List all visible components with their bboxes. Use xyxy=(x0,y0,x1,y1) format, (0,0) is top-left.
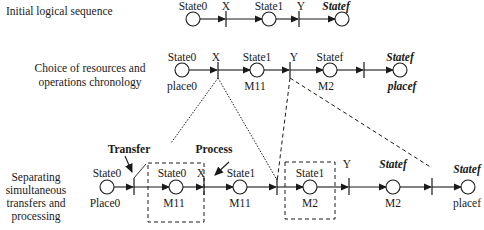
state1-label: State1 xyxy=(243,51,272,63)
place-state1 xyxy=(262,12,276,26)
place-state0-m11 xyxy=(169,180,183,194)
place-state0 xyxy=(186,12,200,26)
place-statef-m2 xyxy=(323,63,337,77)
place-state1-m2 xyxy=(303,180,317,194)
place-statef-m2 xyxy=(386,180,400,194)
x-label: X xyxy=(197,167,206,179)
petri-net-diagram: Initial logical sequence Choice of resou… xyxy=(0,0,484,230)
row3-label-line2: simultaneous xyxy=(6,184,67,196)
m2-label: M2 xyxy=(385,197,401,209)
x-label: X xyxy=(222,0,231,12)
state0-label: State0 xyxy=(93,167,122,179)
place-state0-place0 xyxy=(100,180,114,194)
row3-label-line4: processing xyxy=(11,210,60,223)
placef-label: placef xyxy=(387,80,418,93)
place0-label: Place0 xyxy=(90,197,121,209)
row3-label-line3: transfers and xyxy=(6,197,65,209)
transfer-annotation: Transfer xyxy=(108,143,151,155)
state0-label: State0 xyxy=(158,167,187,179)
statef-label: Statef xyxy=(317,51,344,63)
statef-label: Statef xyxy=(453,163,482,176)
state0-label: State0 xyxy=(168,51,197,63)
place-statef xyxy=(335,12,349,26)
state1-label: State1 xyxy=(296,167,325,179)
row2-label-line1: Choice of resources and xyxy=(35,62,146,74)
row1-net: State0 X State1 Y Statef xyxy=(179,0,351,27)
row3-label-line1: Separating xyxy=(11,171,60,184)
row2-net: State0 place0 X State1 M11 Y Statef M2 S… xyxy=(167,51,418,93)
y-label: Y xyxy=(297,0,306,12)
statef-label: Statef xyxy=(379,158,408,171)
m11-label: M11 xyxy=(229,197,251,209)
process-annotation: Process xyxy=(196,143,233,155)
place-state1-m11 xyxy=(250,63,264,77)
row2-label-line2: operations chronology xyxy=(38,76,141,89)
m11-label: M11 xyxy=(163,197,185,209)
transfer-arrow-icon xyxy=(125,156,132,172)
y-label: Y xyxy=(343,158,352,170)
state1-label: State1 xyxy=(227,167,256,179)
placef-label: placef xyxy=(453,197,481,210)
m11-label: M11 xyxy=(244,80,266,92)
row3-net: State0 Place0 State0 M11 X State1 M11 St… xyxy=(90,143,482,222)
m2-label: M2 xyxy=(318,80,334,92)
place-state1-m11 xyxy=(233,180,247,194)
statef-label: Statef xyxy=(386,51,415,64)
place-statef-placef xyxy=(461,180,475,194)
place0-label: place0 xyxy=(167,80,197,93)
state1-label: State1 xyxy=(255,0,284,12)
statef-label: Statef xyxy=(322,0,351,13)
state0-label: State0 xyxy=(179,0,208,12)
x-label: X xyxy=(212,51,221,63)
place-statef-placef xyxy=(393,63,407,77)
place-state0-place0 xyxy=(175,63,189,77)
row1-label: Initial logical sequence xyxy=(6,5,113,18)
m2-label: M2 xyxy=(302,197,318,209)
y-label: Y xyxy=(290,51,299,63)
